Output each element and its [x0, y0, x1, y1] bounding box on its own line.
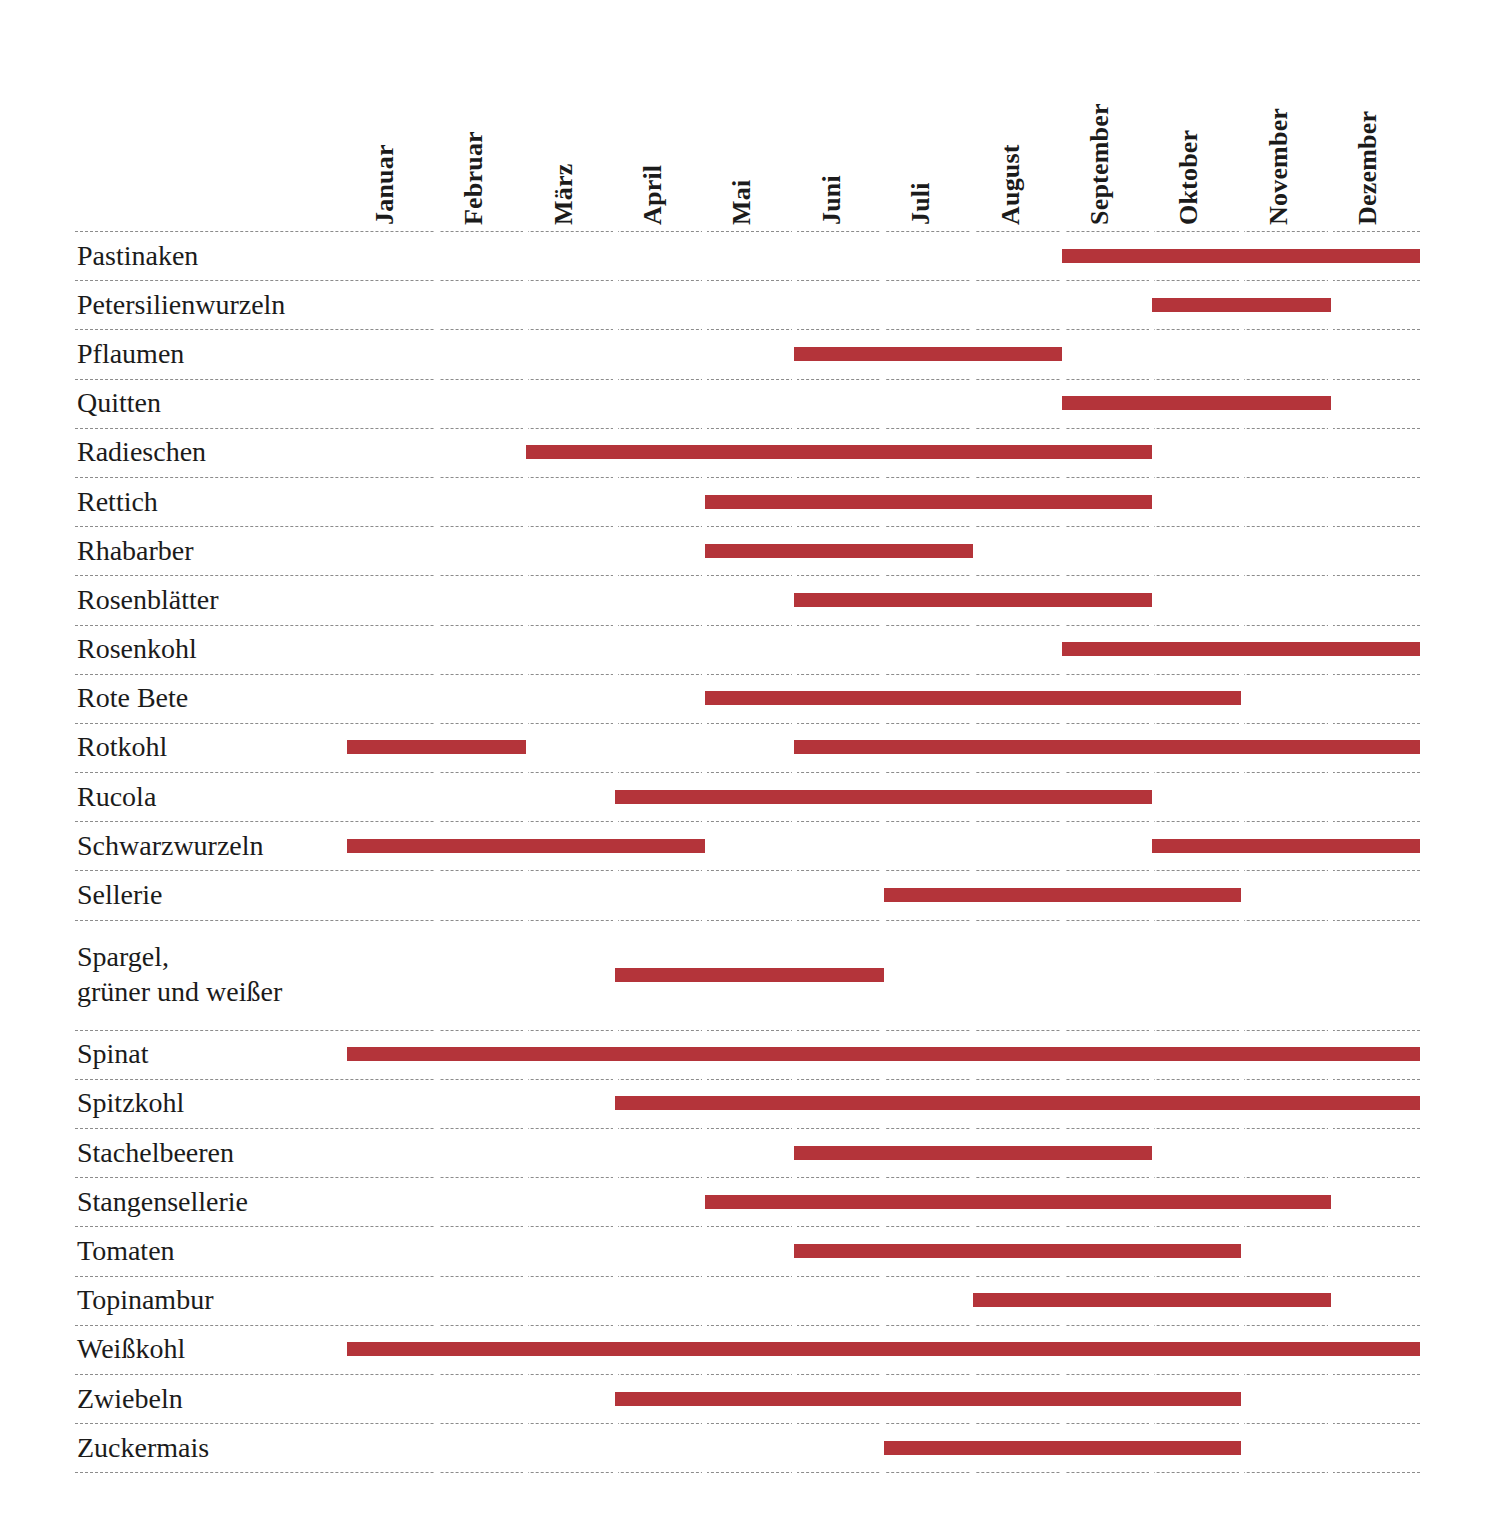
row-label: Rucola	[77, 779, 156, 815]
table-row: Petersilienwurzeln	[75, 280, 1420, 329]
season-track	[347, 1276, 1420, 1325]
season-bar	[615, 1096, 1420, 1110]
season-bar	[705, 691, 1242, 705]
season-track	[347, 280, 1420, 329]
table-row: Stachelbeeren	[75, 1128, 1420, 1177]
row-label: Topinambur	[77, 1282, 213, 1318]
month-column-10: Oktober	[1152, 60, 1241, 225]
season-track	[347, 1226, 1420, 1275]
season-track	[347, 231, 1420, 280]
season-track	[347, 1374, 1420, 1423]
row-label: Rosenkohl	[77, 631, 197, 667]
table-row: Weißkohl	[75, 1325, 1420, 1374]
table-bottom-rule	[75, 1472, 1420, 1473]
month-header-axis: JanuarFebruarMärzAprilMaiJuniJuliAugustS…	[347, 60, 1420, 225]
month-column-6: Juni	[794, 60, 883, 225]
table-row: Spitzkohl	[75, 1079, 1420, 1128]
season-bar	[705, 1195, 1331, 1209]
table-row: Schwarzwurzeln	[75, 821, 1420, 870]
row-label: Pflaumen	[77, 336, 184, 372]
season-bar	[1152, 298, 1331, 312]
row-label: Tomaten	[77, 1233, 175, 1269]
month-label: Dezember	[1353, 111, 1383, 225]
season-track	[347, 1128, 1420, 1177]
row-label: Stachelbeeren	[77, 1135, 234, 1171]
table-row: Rettich	[75, 477, 1420, 526]
season-track	[347, 379, 1420, 428]
season-track	[347, 920, 1420, 1030]
row-label: Weißkohl	[77, 1331, 185, 1367]
row-label: Rote Bete	[77, 680, 188, 716]
month-label: März	[549, 164, 579, 225]
season-bar	[973, 1293, 1331, 1307]
season-bar	[347, 1342, 1420, 1356]
row-label: Pastinaken	[77, 238, 198, 274]
table-row: Pastinaken	[75, 231, 1420, 280]
month-column-12: Dezember	[1331, 60, 1420, 225]
season-track	[347, 329, 1420, 378]
season-track	[347, 772, 1420, 821]
month-column-3: März	[526, 60, 615, 225]
season-track	[347, 870, 1420, 919]
season-bar	[1062, 249, 1420, 263]
season-track	[347, 1177, 1420, 1226]
season-track	[347, 1079, 1420, 1128]
row-label: Spitzkohl	[77, 1085, 184, 1121]
month-column-9: September	[1062, 60, 1151, 225]
season-bar	[347, 839, 705, 853]
season-bar	[615, 968, 883, 982]
season-bar	[347, 740, 526, 754]
month-label: September	[1085, 103, 1115, 225]
season-bar	[794, 740, 1420, 754]
month-column-2: Februar	[436, 60, 525, 225]
season-track	[347, 1325, 1420, 1374]
row-divider	[75, 1472, 1420, 1474]
season-bar	[705, 495, 1152, 509]
seasonal-calendar-chart: JanuarFebruarMärzAprilMaiJuniJuliAugustS…	[0, 0, 1492, 1533]
season-track	[347, 575, 1420, 624]
month-label: Juni	[817, 175, 847, 225]
row-label: Quitten	[77, 385, 161, 421]
row-label: Zuckermais	[77, 1430, 209, 1466]
season-track	[347, 821, 1420, 870]
table-row: Rosenblätter	[75, 575, 1420, 624]
season-bar	[1062, 396, 1330, 410]
season-track	[347, 526, 1420, 575]
table-row: Spinat	[75, 1030, 1420, 1079]
table-row: Tomaten	[75, 1226, 1420, 1275]
table-row: Rhabarber	[75, 526, 1420, 575]
month-column-8: August	[973, 60, 1062, 225]
month-column-11: November	[1241, 60, 1330, 225]
season-track	[347, 723, 1420, 772]
month-label: August	[996, 144, 1026, 225]
row-label: Spargel, grüner und weißer	[77, 939, 282, 1011]
table-row: Spargel, grüner und weißer	[75, 920, 1420, 1030]
table-row: Zwiebeln	[75, 1374, 1420, 1423]
season-bar	[347, 1047, 1420, 1061]
season-bar	[884, 1441, 1242, 1455]
table-row: Topinambur	[75, 1276, 1420, 1325]
row-label: Zwiebeln	[77, 1381, 183, 1417]
season-bar	[1152, 839, 1420, 853]
table-row: Quitten	[75, 379, 1420, 428]
produce-rows: PastinakenPetersilienwurzelnPflaumenQuit…	[75, 231, 1420, 1473]
month-column-5: Mai	[705, 60, 794, 225]
row-label: Petersilienwurzeln	[77, 287, 285, 323]
season-bar	[615, 1392, 1241, 1406]
season-bar	[794, 593, 1152, 607]
row-label: Schwarzwurzeln	[77, 828, 264, 864]
season-bar	[794, 1244, 1241, 1258]
season-bar	[884, 888, 1242, 902]
season-bar	[705, 544, 973, 558]
table-row: Rotkohl	[75, 723, 1420, 772]
season-bar	[1062, 642, 1420, 656]
table-row: Stangensellerie	[75, 1177, 1420, 1226]
season-track	[347, 428, 1420, 477]
row-label: Sellerie	[77, 877, 163, 913]
table-row: Zuckermais	[75, 1423, 1420, 1472]
row-label: Rosenblätter	[77, 582, 219, 618]
season-track	[347, 625, 1420, 674]
month-column-1: Januar	[347, 60, 436, 225]
table-row: Pflaumen	[75, 329, 1420, 378]
row-label: Spinat	[77, 1036, 149, 1072]
